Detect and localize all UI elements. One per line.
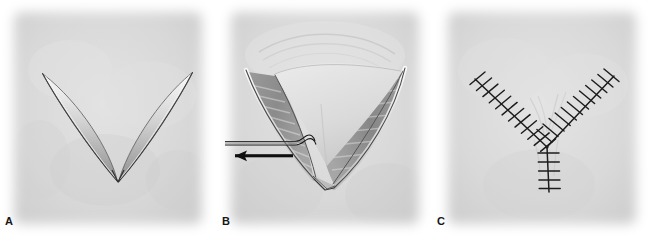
panel-b	[217, 0, 432, 250]
panel-label-b: B	[222, 216, 230, 227]
skin-surface-a	[0, 0, 215, 250]
panel-c-illustration	[434, 0, 649, 250]
panel-label-a: A	[5, 216, 13, 227]
panel-b-illustration	[217, 0, 432, 250]
panel-a-illustration	[0, 0, 215, 250]
panel-a	[0, 0, 215, 250]
panel-label-c: C	[437, 216, 445, 227]
surgical-figure: A	[0, 0, 649, 250]
panel-c	[434, 0, 649, 250]
